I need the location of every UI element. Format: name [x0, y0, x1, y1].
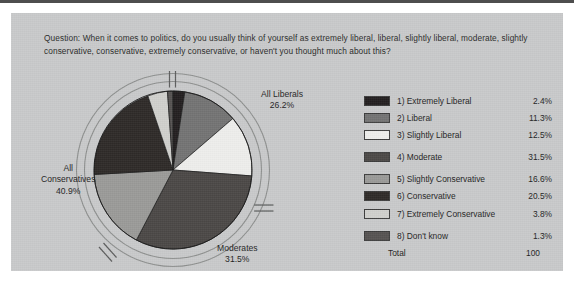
callout-moderates-value: 31.5% [217, 254, 258, 265]
legend-swatch-icon [364, 113, 390, 123]
legend-label: 2) Liberal [397, 113, 432, 123]
legend-label: 3) Slightly Liberal [397, 130, 461, 140]
legend-swatch-icon [364, 152, 390, 162]
legend-swatch-icon [364, 96, 390, 106]
legend-value: 16.6% [528, 174, 552, 184]
legend-swatch-icon [364, 191, 390, 201]
legend-label: 4) Moderate [397, 152, 442, 162]
pie-chart: All Liberals 26.2% All Conservatives 40.… [39, 71, 349, 283]
legend-value: 12.5% [528, 130, 552, 140]
legend-total-label: Total [364, 248, 406, 258]
legend-label: 1) Extremely Liberal [397, 96, 471, 106]
legend-label: 7) Extremely Conservative [397, 209, 495, 219]
legend-row: 2) Liberal 11.3% [364, 109, 554, 126]
legend-swatch-icon [364, 174, 390, 184]
callout-all-conservatives-label-1: All [41, 163, 95, 174]
legend-value: 20.5% [528, 191, 552, 201]
legend-row: 6) Conservative 20.5% [364, 188, 554, 205]
top-rule [0, 0, 574, 3]
legend-label: 5) Slightly Conservative [397, 174, 485, 184]
callout-all-liberals: All Liberals 26.2% [261, 89, 303, 112]
chart-panel: Question: When it comes to politics, do … [11, 13, 563, 271]
legend-label: 6) Conservative [397, 191, 456, 201]
legend: 1) Extremely Liberal 2.4% 2) Liberal 11.… [364, 92, 554, 262]
callout-all-liberals-value: 26.2% [261, 100, 303, 111]
legend-row: 3) Slightly Liberal 12.5% [364, 127, 554, 144]
callout-all-conservatives-label-2: Conservatives [41, 174, 95, 185]
legend-value: 1.3% [533, 231, 552, 241]
legend-row: 8) Don't know 1.3% [364, 227, 554, 244]
callout-all-conservatives-value: 40.9% [41, 186, 95, 197]
legend-value: 2.4% [533, 96, 552, 106]
callout-all-liberals-label: All Liberals [261, 89, 303, 100]
legend-row: 4) Moderate 31.5% [364, 149, 554, 166]
legend-value: 11.3% [529, 113, 552, 123]
legend-row: 1) Extremely Liberal 2.4% [364, 92, 554, 109]
legend-swatch-icon [364, 231, 390, 241]
legend-row: 5) Slightly Conservative 16.6% [364, 170, 554, 187]
callout-all-conservatives: All Conservatives 40.9% [41, 163, 95, 197]
legend-row: 7) Extremely Conservative 3.8% [364, 205, 554, 222]
legend-swatch-icon [364, 209, 390, 219]
callout-moderates-label: Moderates [217, 243, 258, 254]
legend-swatch-icon [364, 130, 390, 140]
legend-total-value: 100 [526, 248, 540, 258]
question-text: Question: When it comes to politics, do … [44, 32, 552, 57]
legend-value: 3.8% [533, 209, 552, 219]
callout-moderates: Moderates 31.5% [217, 243, 258, 266]
legend-label: 8) Don't know [397, 231, 448, 241]
figure-root: Question: When it comes to politics, do … [0, 0, 574, 283]
pie-slices [94, 91, 252, 249]
legend-value: 31.5% [528, 152, 552, 162]
legend-total-row: Total 100 [364, 244, 554, 261]
